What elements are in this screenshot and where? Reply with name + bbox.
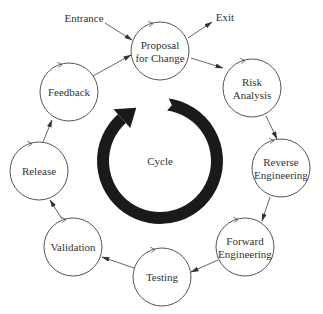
node-forward: ForwardEngineering (216, 217, 274, 276)
node-reverse: ReverseEngineering (252, 138, 310, 197)
node-label: for Change (135, 52, 184, 64)
node-release: Release (10, 141, 68, 200)
node-label: Testing (146, 271, 179, 283)
entrance-marker: Entrance (64, 12, 132, 40)
entrance-arrow-icon (105, 23, 132, 40)
node-label: Engineering (218, 248, 272, 260)
node-testing: Testing (133, 247, 191, 306)
edge-feedback-to-proposal (93, 55, 131, 76)
edge-risk-to-reverse (266, 116, 277, 139)
edge-release-to-feedback (43, 120, 52, 142)
node-label: Proposal (141, 39, 180, 51)
node-proposal: Proposalfor Change (131, 21, 189, 80)
cycle-diagram: Proposalfor ChangeRiskAnalysisReverseEng… (0, 0, 323, 314)
node-label: Reverse (263, 156, 299, 168)
edge-validation-to-release (50, 200, 62, 219)
node-label: Validation (50, 241, 96, 253)
entrance-label: Entrance (64, 12, 103, 24)
edge-testing-to-validation (102, 257, 134, 268)
exit-label: Exit (216, 11, 234, 23)
node-label: Forward (226, 235, 264, 247)
node-label: Release (22, 165, 56, 177)
node-validation: Validation (44, 217, 102, 276)
edge-forward-to-testing (191, 260, 218, 272)
edge-proposal-to-risk (191, 58, 223, 68)
center-label: Cycle (147, 155, 173, 167)
node-risk: RiskAnalysis (223, 58, 281, 117)
node-label: Engineering (254, 169, 308, 181)
node-label: Analysis (233, 89, 272, 101)
diagram-canvas: Proposalfor ChangeRiskAnalysisReverseEng… (0, 0, 323, 314)
node-label: Risk (242, 76, 263, 88)
node-label: Feedback (48, 86, 91, 98)
exit-marker: Exit (188, 11, 234, 38)
exit-arrow-icon (188, 22, 212, 38)
node-feedback: Feedback (40, 62, 98, 121)
edge-reverse-to-forward (262, 197, 270, 221)
